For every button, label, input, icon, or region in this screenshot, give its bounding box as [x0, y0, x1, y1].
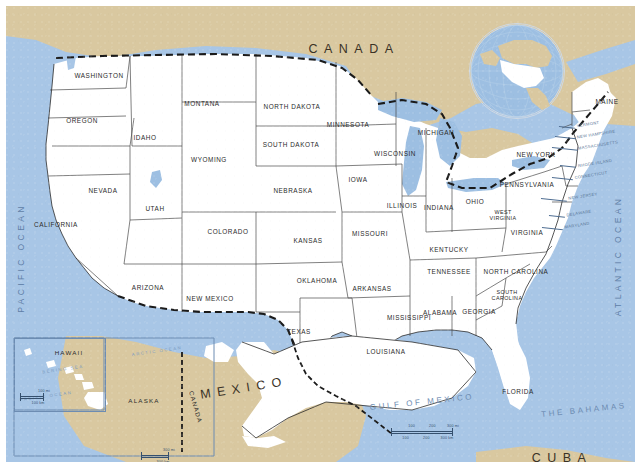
scalebar-end-tick [141, 452, 142, 460]
main-scalebar: 100200300 mi100200300 km [391, 426, 453, 440]
scalebar-km-label: 100 [402, 436, 409, 440]
scalebar-km-label: 200 [423, 436, 430, 440]
scalebar-end-tick [452, 428, 453, 436]
scalebar-km-line [20, 398, 44, 399]
scalebar-end-tick [43, 393, 44, 401]
scalebar-miles-line [141, 455, 169, 456]
alaska-scalebar: 300 mi300 km [141, 450, 169, 462]
scalebar-end-tick [20, 393, 21, 401]
inset-frame-lines [6, 6, 635, 462]
usa-reference-map: WASHINGTONOREGONIDAHOMONTANAWYOMINGNORTH… [0, 0, 641, 472]
ocean-background: WASHINGTONOREGONIDAHOMONTANAWYOMINGNORTH… [6, 6, 635, 462]
scalebar-miles-line [20, 396, 44, 397]
scalebar-km-line [141, 457, 169, 458]
scalebar-end-tick [391, 428, 392, 436]
scalebar-end-tick [168, 452, 169, 460]
scalebar-km-label: 300 km [441, 436, 454, 440]
scalebar-miles-line [391, 431, 453, 432]
scalebar-km-line [391, 433, 453, 434]
hawaii-scalebar: 100 mi100 km [20, 391, 44, 405]
scalebar-km-label: 100 km [32, 401, 45, 405]
scalebar-km-label: 300 km [157, 460, 170, 462]
